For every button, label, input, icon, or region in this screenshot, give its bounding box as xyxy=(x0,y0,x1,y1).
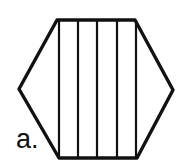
diagram-canvas: a. xyxy=(0,0,182,160)
vertical-strip-lines xyxy=(59,20,136,158)
figure-label: a. xyxy=(16,124,39,154)
